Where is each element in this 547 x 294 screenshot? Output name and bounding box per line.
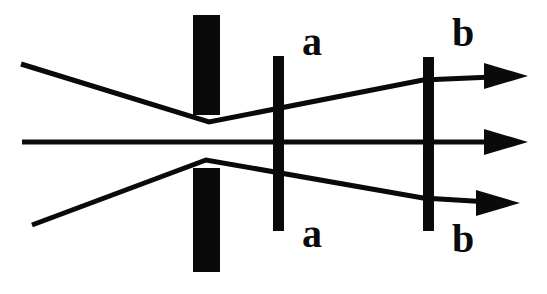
label-b-bottom: b: [452, 216, 474, 261]
label-a-top: a: [302, 19, 322, 64]
label-b-top: b: [452, 10, 474, 55]
optical-ray-diagram-canvas: aabb: [0, 0, 547, 294]
label-a-bottom: a: [302, 211, 322, 256]
aperture-stop-upper-block: [193, 15, 220, 115]
aperture-stop-lower-block: [193, 168, 220, 272]
ray-diagram-figure: aabb: [0, 0, 547, 294]
